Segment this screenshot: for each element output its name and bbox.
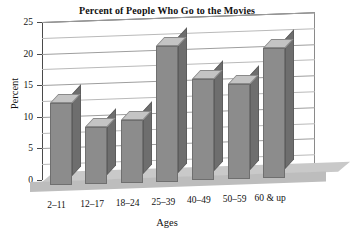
bar-front-face (228, 84, 250, 179)
bar-column (85, 127, 107, 184)
x-axis-tick-label: 60 & up (255, 193, 286, 203)
x-axis-tick-label: 12–17 (80, 199, 104, 209)
bar-front-face (85, 127, 107, 184)
x-axis-tick-label: 40–49 (187, 195, 211, 205)
x-axis-tick-label: 18–24 (116, 198, 140, 208)
bar-front-face (192, 79, 214, 180)
bar-column (192, 79, 214, 180)
bar-front-face (263, 48, 285, 178)
x-axis-title: Ages (0, 217, 334, 228)
bar-front-face (156, 46, 178, 182)
bar-front-face (50, 103, 72, 185)
bar-column (50, 103, 72, 185)
bar-column (228, 84, 250, 179)
bar-side-face (178, 27, 187, 173)
bar-column (263, 48, 285, 178)
x-axis-tick-label: 25–39 (151, 197, 175, 207)
bar-column (121, 120, 143, 183)
x-axis-tick-label: 50–59 (223, 194, 247, 204)
bar-front-face (121, 120, 143, 183)
bar-column (156, 46, 178, 182)
bar-side-face (285, 29, 294, 168)
x-axis-tick-label: 2–11 (47, 200, 66, 210)
